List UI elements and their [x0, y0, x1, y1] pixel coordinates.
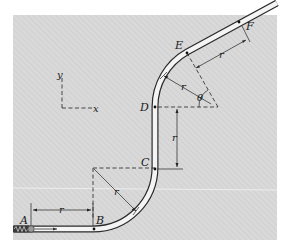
tube-path-diagram: y x A B C D E F r r r r r θ — [0, 0, 285, 250]
theta-label: θ — [197, 92, 203, 103]
label-B: B — [95, 214, 104, 227]
point-F-dot — [238, 21, 241, 24]
label-D: D — [139, 101, 149, 114]
ball — [28, 226, 35, 233]
label-E: E — [174, 39, 183, 52]
point-D-dot — [154, 106, 157, 109]
point-B-dot — [93, 228, 96, 231]
x-axis-label: x — [93, 103, 99, 114]
y-axis-label: y — [56, 69, 63, 80]
label-C: C — [141, 156, 150, 169]
label-F: F — [245, 20, 254, 33]
label-A: A — [19, 214, 28, 227]
